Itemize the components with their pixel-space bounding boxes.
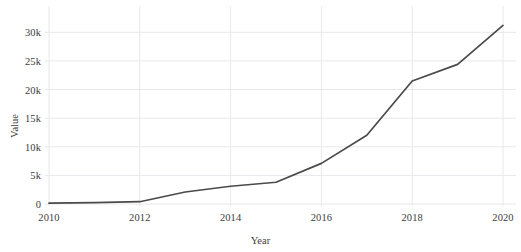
x-axis-title: Year <box>0 235 521 246</box>
series-line <box>49 25 503 203</box>
y-axis-tick-label: 25k <box>0 55 41 66</box>
chart-plot-area <box>0 0 521 252</box>
y-axis-tick-label: 10k <box>0 141 41 152</box>
x-axis-tick-label: 2014 <box>220 212 241 223</box>
y-axis-tick-label: 15k <box>0 113 41 124</box>
x-axis-tick-label: 2018 <box>401 212 422 223</box>
x-axis-tick-label: 2020 <box>492 212 513 223</box>
x-axis-tick-label: 2012 <box>129 212 150 223</box>
y-axis-tick-label: 0 <box>0 199 41 210</box>
data-series-group <box>49 25 503 203</box>
y-axis-title: Value <box>9 114 20 138</box>
line-chart: 05k10k15k20k25k30k 201020122014201620182… <box>0 0 521 252</box>
x-axis-tick-label: 2010 <box>38 212 59 223</box>
y-axis-tick-label: 5k <box>0 170 41 181</box>
y-axis-tick-label: 30k <box>0 27 41 38</box>
x-axis-tick-label: 2016 <box>311 212 332 223</box>
gridlines-group <box>45 6 516 206</box>
y-axis-tick-label: 20k <box>0 84 41 95</box>
